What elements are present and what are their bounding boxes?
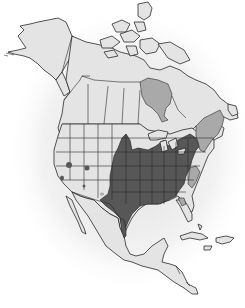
range-spot-nevada: [66, 162, 72, 168]
north-america-map: [0, 0, 245, 308]
range-map: [0, 0, 245, 308]
range-spot-utah: [85, 166, 90, 171]
range-spot-california: [60, 176, 64, 181]
range-spot-arizona: [83, 185, 86, 188]
range-spot-new-mexico: [100, 193, 104, 196]
